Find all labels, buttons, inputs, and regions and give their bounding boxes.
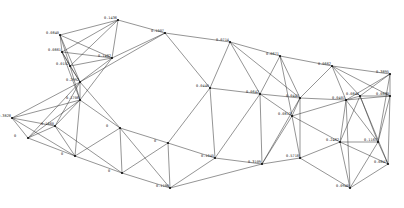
node-label: 0.1660 [41, 122, 54, 126]
truss-node [61, 51, 63, 53]
truss-node [331, 65, 333, 67]
truss-node [119, 127, 121, 129]
truss-node [79, 99, 81, 101]
truss-node [69, 65, 71, 67]
truss-member [28, 100, 80, 138]
truss-node [291, 115, 293, 117]
truss-node [389, 95, 391, 97]
node-label: 0.0940 [336, 184, 349, 188]
truss-member [170, 164, 262, 188]
truss-member [112, 20, 118, 58]
truss-node [299, 157, 301, 159]
truss-node [261, 163, 263, 165]
truss-member [55, 126, 75, 156]
node-label: 0.1167 [364, 138, 377, 142]
node-label: 0 [106, 124, 108, 128]
node-label: 0 [108, 169, 110, 173]
truss-node [229, 41, 231, 43]
node-label: 0.0714 [216, 38, 229, 42]
truss-member [262, 158, 300, 164]
truss-node [299, 97, 301, 99]
node-label: 0.0861 [48, 48, 61, 52]
truss-member [70, 58, 112, 66]
node-label: 0.0844 [346, 92, 359, 96]
truss-node [389, 73, 391, 75]
truss-member [210, 42, 230, 88]
truss-node [27, 137, 29, 139]
truss-member [260, 56, 280, 94]
truss-member [80, 82, 120, 128]
truss-member [230, 42, 260, 94]
truss-member [210, 88, 215, 158]
truss-node [74, 155, 76, 157]
truss-member [75, 156, 122, 173]
truss-node [209, 87, 211, 89]
truss-member [360, 96, 388, 164]
node-label: 0.1007 [151, 29, 164, 33]
truss-node [111, 57, 113, 59]
truss-nodes: 0.14360.08400.10070.14820.08610.01520.29… [0, 16, 391, 190]
node-label: 0.2992 [66, 78, 79, 82]
truss-member [28, 138, 75, 156]
truss-member [292, 98, 300, 116]
truss-member [388, 96, 390, 164]
truss-member [300, 66, 332, 98]
truss-member [292, 116, 300, 158]
truss-member [215, 94, 260, 158]
node-label: 0.0847 [374, 160, 387, 164]
truss-member [168, 88, 210, 143]
truss-member [12, 100, 80, 118]
truss-node [259, 93, 261, 95]
truss-member [340, 142, 350, 188]
node-label: 0.3828 [0, 114, 11, 118]
truss-node [117, 19, 119, 21]
truss-node [279, 55, 281, 57]
truss-member [346, 100, 350, 188]
truss-member [120, 128, 122, 173]
node-label: 0.1436 [104, 16, 117, 20]
truss-node [169, 187, 171, 189]
truss-member [60, 20, 118, 35]
truss-node [11, 117, 13, 119]
node-label: 0 [14, 134, 16, 138]
node-label: 0 [61, 152, 63, 156]
truss-member [112, 33, 165, 58]
truss-member [80, 58, 112, 82]
node-label: 0.1482 [98, 54, 111, 58]
truss-member [75, 128, 120, 156]
truss-member [260, 94, 262, 164]
truss-member [350, 164, 388, 188]
truss-node [345, 99, 347, 101]
truss-member [350, 142, 378, 188]
node-label: 0.2462 [326, 138, 339, 142]
truss-member [80, 33, 165, 82]
truss-node [339, 141, 341, 143]
node-label: 0 [154, 139, 156, 143]
node-label: 0.0662 [318, 62, 331, 66]
truss-member [280, 56, 292, 116]
truss-node [359, 95, 361, 97]
node-label: 0.0440 [196, 84, 209, 88]
truss-member [340, 96, 360, 142]
node-label: 0.0401 [332, 96, 345, 100]
node-label: 0.0642 [246, 90, 259, 94]
truss-member [28, 82, 80, 138]
node-label: 0.0152 [56, 62, 69, 66]
truss-member [378, 74, 390, 142]
truss-member [170, 158, 215, 188]
truss-node [164, 32, 166, 34]
truss-member [80, 100, 120, 128]
truss-node [59, 34, 61, 36]
node-label: 0.0447 [286, 94, 299, 98]
truss-member [378, 96, 390, 142]
node-label: 0.1190 [156, 184, 169, 188]
truss-member [60, 35, 80, 82]
node-label: 0.0840 [46, 31, 59, 35]
truss-member [168, 143, 170, 188]
truss-members [12, 20, 390, 188]
node-label: 0.5718 [286, 154, 299, 158]
node-label: 0.3109 [248, 160, 261, 164]
truss-diagram: 0.14360.08400.10070.14820.08610.01520.29… [0, 0, 404, 208]
node-label: 0.1706 [66, 96, 79, 100]
truss-node [349, 187, 351, 189]
